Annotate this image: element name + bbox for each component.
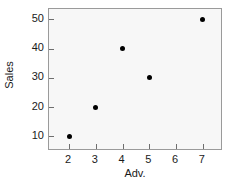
x-axis-title: Adv. (48, 168, 222, 179)
data-point (93, 105, 98, 110)
plot-area (48, 8, 222, 150)
x-tick-mark (176, 144, 177, 149)
y-tick-label: 10 (18, 130, 44, 141)
y-tick-mark (49, 136, 54, 137)
data-point (200, 17, 205, 22)
y-tick-label: 40 (18, 42, 44, 53)
y-axis-title-text: Sales (3, 61, 15, 89)
cropped-title-fragment (0, 0, 227, 6)
y-tick-mark (49, 78, 54, 79)
y-tick-label: 20 (18, 101, 44, 112)
y-tick-label: 50 (18, 13, 44, 24)
data-point (67, 134, 72, 139)
x-tick-mark (69, 144, 70, 149)
x-tick-label: 5 (138, 154, 158, 165)
x-tick-label: 6 (165, 154, 185, 165)
x-tick-label: 4 (112, 154, 132, 165)
x-tick-label: 3 (85, 154, 105, 165)
y-tick-mark (49, 107, 54, 108)
y-axis-title: Sales (1, 0, 17, 150)
y-tick-mark (49, 19, 54, 20)
scatter-plot-figure: Sales 1020304050 234567 Adv. (0, 0, 227, 185)
x-tick-label: 2 (58, 154, 78, 165)
y-tick-mark (49, 49, 54, 50)
y-tick-label: 30 (18, 71, 44, 82)
x-tick-mark (149, 144, 150, 149)
x-tick-mark (203, 144, 204, 149)
data-point (147, 75, 152, 80)
x-tick-label: 7 (192, 154, 212, 165)
x-tick-mark (123, 144, 124, 149)
data-point (120, 46, 125, 51)
x-tick-mark (96, 144, 97, 149)
